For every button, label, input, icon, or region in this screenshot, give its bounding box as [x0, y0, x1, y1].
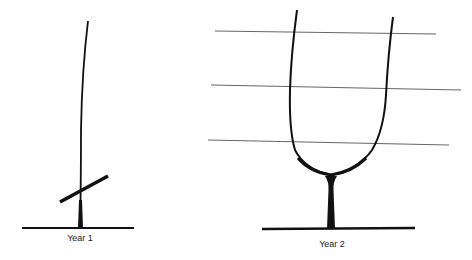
right-arm-thick [331, 158, 366, 175]
label-year-2: Year 2 [319, 239, 345, 249]
year-2-figure [262, 10, 415, 229]
trunk-year-2 [325, 176, 337, 229]
cane-year-1 [80, 21, 88, 228]
left-arm-year-2 [290, 10, 331, 175]
right-arm-year-2 [331, 17, 393, 175]
diagram-canvas [0, 0, 472, 260]
wire-bottom [208, 140, 449, 145]
ground-line-year-2 [262, 228, 415, 229]
year-1-figure [22, 21, 134, 228]
wire-top [215, 31, 436, 34]
label-year-1: Year 1 [67, 233, 93, 243]
cross-tie-year-1 [60, 176, 108, 202]
wire-middle [211, 85, 461, 90]
cane-base-year-1 [78, 200, 83, 228]
trellis-wires [208, 31, 461, 145]
